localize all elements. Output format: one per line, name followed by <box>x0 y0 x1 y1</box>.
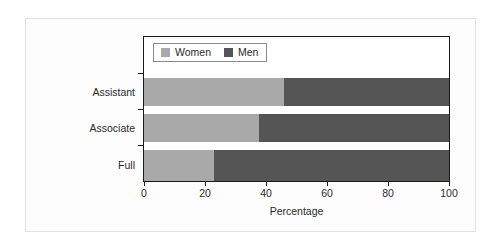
x-axis-title: Percentage <box>143 205 450 217</box>
x-tick-mark <box>327 181 328 186</box>
bar-segment-women-associate <box>144 114 259 142</box>
legend-label-women: Women <box>175 47 211 58</box>
x-tick-mark <box>388 181 389 186</box>
bar-segment-men-associate <box>259 114 449 142</box>
chart-figure: Women Men Assistant Associa <box>0 0 500 250</box>
x-tick-label-100: 100 <box>440 188 458 199</box>
x-tick-label-40: 40 <box>260 188 272 199</box>
bar-segment-women-full <box>144 150 214 181</box>
bar-segment-men-full <box>214 150 449 181</box>
legend-label-men: Men <box>238 47 258 58</box>
y-label-associate: Associate <box>89 123 135 134</box>
plot-frame: Women Men Assistant Associa <box>143 36 450 182</box>
legend-swatch-women <box>161 48 170 57</box>
bar-row-full: Full <box>144 150 449 181</box>
x-tick-mark <box>205 181 206 186</box>
y-label-full: Full <box>118 160 135 171</box>
bar-segment-men-assistant <box>284 78 449 106</box>
x-tick-label-0: 0 <box>141 188 147 199</box>
x-tick-mark <box>266 181 267 186</box>
chart-legend: Women Men <box>153 43 267 62</box>
x-tick-label-20: 20 <box>199 188 211 199</box>
x-tick-label-60: 60 <box>321 188 333 199</box>
x-tick-mark <box>144 181 145 186</box>
y-tick-mark <box>138 145 144 146</box>
plot-area: Women Men Assistant Associa <box>144 37 449 181</box>
bar-segment-women-assistant <box>144 78 284 106</box>
y-tick-mark <box>138 109 144 110</box>
bar-row-associate: Associate <box>144 114 449 142</box>
x-tick-label-80: 80 <box>382 188 394 199</box>
y-tick-mark <box>138 73 144 74</box>
legend-entry-men: Men <box>224 47 258 58</box>
x-tick-mark <box>449 181 450 186</box>
y-label-assistant: Assistant <box>92 87 135 98</box>
bar-row-assistant: Assistant <box>144 78 449 106</box>
legend-entry-women: Women <box>161 47 211 58</box>
legend-swatch-men <box>224 48 233 57</box>
